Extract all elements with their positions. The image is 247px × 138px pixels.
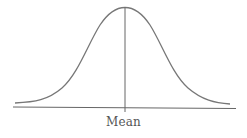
- mean-label: Mean: [0, 115, 247, 129]
- bell-curve: [15, 8, 230, 105]
